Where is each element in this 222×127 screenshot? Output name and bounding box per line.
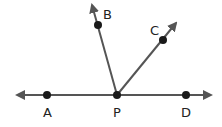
- label-c: C: [150, 23, 159, 38]
- point-c: [159, 36, 167, 44]
- label-p: P: [113, 105, 121, 120]
- ray-pc: [117, 23, 176, 95]
- label-b: B: [103, 7, 112, 22]
- geometry-diagram: A P D B C: [0, 0, 222, 127]
- label-d: D: [181, 105, 191, 120]
- point-a: [43, 91, 51, 99]
- point-p: [113, 91, 121, 99]
- point-b: [94, 21, 102, 29]
- point-d: [182, 91, 190, 99]
- label-a: A: [43, 105, 52, 120]
